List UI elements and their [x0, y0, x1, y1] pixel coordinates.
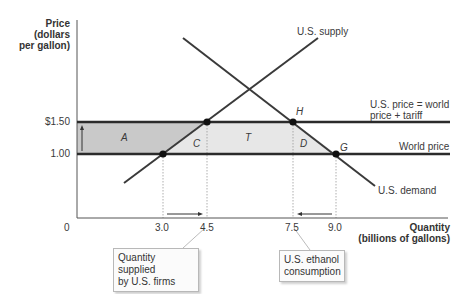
x-axis-title-line2: (billions of gallons): [340, 233, 450, 244]
point-h-label: H: [296, 106, 303, 117]
y-axis-title: Price (dollars per gallon): [10, 18, 70, 51]
callout-consumption-line2: consumption: [284, 266, 340, 278]
y-tick-low: 1.00: [30, 148, 70, 159]
y-axis-title-line2: (dollars: [10, 29, 70, 40]
y-tick-high: $1.50: [30, 116, 70, 127]
point-g: [332, 150, 339, 157]
world-price-label: World price: [399, 141, 449, 152]
callout-supplied-line1: Quantity supplied: [118, 252, 194, 276]
x-tick-4-5: 4.5: [200, 222, 214, 233]
tariff-price-label-line1: U.S. price = world: [370, 99, 449, 110]
callout-ethanol-consumption: U.S. ethanol consumption: [279, 250, 345, 282]
region-c-label: C: [193, 138, 200, 149]
region-t-label: T: [245, 132, 251, 143]
consumption-decrease-arrow-icon: [297, 212, 332, 216]
demand-label: U.S. demand: [378, 185, 436, 196]
x-axis-title: Quantity (billions of gallons): [340, 222, 450, 244]
demand-curve: [183, 38, 375, 186]
callout-supplied-line2: by U.S. firms: [118, 276, 194, 288]
point-tariff-supply: [203, 118, 210, 125]
x-axis-title-line1: Quantity: [340, 222, 450, 233]
point-h: [289, 118, 296, 125]
supply-curve: [124, 38, 318, 183]
point-g-label: G: [340, 142, 348, 153]
region-d-label: D: [300, 138, 307, 149]
y-axis-title-line3: per gallon): [10, 40, 70, 51]
point-world-supply: [159, 150, 166, 157]
region-a-label: A: [121, 132, 128, 143]
tariff-price-label: U.S. price = world price + tariff: [370, 99, 449, 121]
callout-quantity-supplied: Quantity supplied by U.S. firms: [113, 248, 199, 292]
y-axis-title-line1: Price: [10, 18, 70, 29]
callout-consumption-line1: U.S. ethanol: [284, 254, 340, 266]
x-tick-7-5: 7.5: [285, 222, 299, 233]
supply-increase-arrow-icon: [167, 212, 203, 216]
x-tick-3: 3.0: [155, 222, 169, 233]
tariff-price-label-line2: price + tariff: [370, 110, 449, 121]
supply-label: U.S. supply: [297, 26, 348, 37]
x-tick-0: 0: [64, 222, 70, 233]
